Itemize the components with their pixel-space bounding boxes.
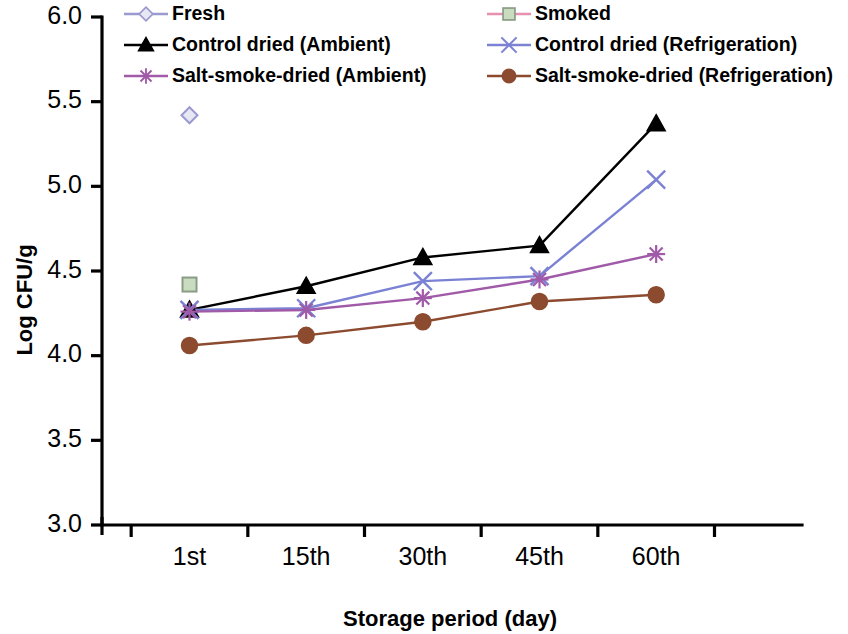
x-tick-label: 30th <box>398 542 447 570</box>
y-tick-label: 4.5 <box>47 255 82 283</box>
legend-label: Salt-smoke-dried (Refrigeration) <box>535 64 833 86</box>
chart-series-markers <box>183 278 197 292</box>
legend-label: Fresh <box>172 2 225 24</box>
y-axis-title: Log CFU/g <box>12 244 37 355</box>
y-tick-label: 3.0 <box>47 509 82 537</box>
x-tick-label: 15th <box>282 542 331 570</box>
legend-label: Smoked <box>535 2 611 24</box>
y-tick-label: 6.0 <box>47 1 82 29</box>
legend-label: Control dried (Ambient) <box>172 33 391 55</box>
y-tick-label: 5.0 <box>47 170 82 198</box>
legend-item[interactable]: Salt-smoke-dried (Refrigeration) <box>487 64 833 86</box>
x-axis-title: Storage period (day) <box>343 606 557 631</box>
chart-container: FreshSmokedControl dried (Ambient)Contro… <box>0 0 848 634</box>
legend-label: Salt-smoke-dried (Ambient) <box>172 64 427 86</box>
line-chart: FreshSmokedControl dried (Ambient)Contro… <box>0 0 848 634</box>
y-tick-label: 3.5 <box>47 424 82 452</box>
y-tick-label: 5.5 <box>47 85 82 113</box>
x-tick-label: 1st <box>173 542 206 570</box>
y-tick-label: 4.0 <box>47 339 82 367</box>
x-tick-label: 60th <box>632 542 681 570</box>
legend-label: Control dried (Refrigeration) <box>535 33 797 55</box>
x-tick-label: 45th <box>515 542 564 570</box>
